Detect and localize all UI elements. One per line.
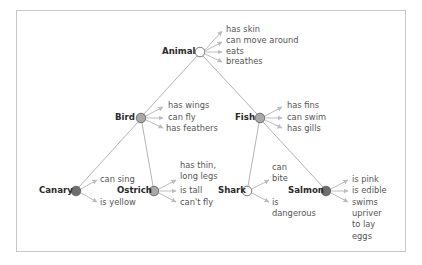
property-shark-1b: dangerous xyxy=(272,208,316,219)
property-salmon-2a: swims xyxy=(352,197,378,208)
property-fish-2: has gills xyxy=(287,123,321,134)
property-ostrich-0a: has thin, xyxy=(180,160,216,171)
node-label-canary: Canary xyxy=(39,185,73,196)
property-shark-0a: can xyxy=(272,162,287,173)
property-ostrich-0b: long legs xyxy=(180,171,218,182)
node-label-ostrich: Ostrich xyxy=(117,185,152,196)
property-animal-0: has skin xyxy=(226,24,260,35)
property-salmon-2b: upriver xyxy=(352,208,382,219)
property-canary-1: is yellow xyxy=(100,197,136,208)
node-label-animal: Animal xyxy=(162,46,195,57)
property-bird-0: has wings xyxy=(168,100,209,111)
node-bird-circle xyxy=(136,113,146,123)
property-salmon-0: is pink xyxy=(352,174,379,185)
property-animal-3: breathes xyxy=(226,56,263,67)
node-label-bird: Bird xyxy=(115,112,135,123)
property-shark-1a: is xyxy=(272,197,279,208)
property-ostrich-1: is tall xyxy=(180,185,202,196)
edge-bird-ostrich xyxy=(142,123,153,186)
property-canary-0: can sing xyxy=(100,174,135,185)
node-label-fish: Fish xyxy=(235,112,255,123)
property-shark-0b: bite xyxy=(272,173,288,184)
node-animal-circle xyxy=(195,47,205,57)
property-ostrich-2: can't fly xyxy=(180,197,213,208)
node-fish-circle xyxy=(255,113,265,123)
property-fish-1: can swim xyxy=(287,112,326,123)
edge-fish-shark xyxy=(248,123,259,186)
property-animal-1: can move around xyxy=(226,35,299,46)
property-salmon-1: is edible xyxy=(352,185,387,196)
property-bird-1: can fly xyxy=(168,112,196,123)
property-salmon-2d: eggs xyxy=(352,231,372,242)
node-label-salmon: Salmon xyxy=(288,185,324,196)
property-salmon-2c: to lay xyxy=(352,219,375,230)
property-fish-0: has fins xyxy=(287,100,319,111)
property-bird-2: has feathers xyxy=(166,123,218,134)
node-label-shark: Shark xyxy=(218,185,246,196)
